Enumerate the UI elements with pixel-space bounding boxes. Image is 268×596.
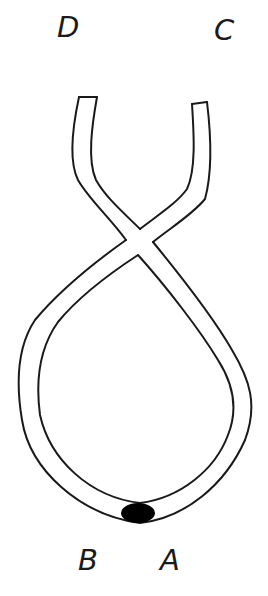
label-c: C <box>214 16 234 45</box>
label-d: D <box>57 13 79 42</box>
label-b: B <box>78 546 98 575</box>
label-a: A <box>160 546 180 575</box>
blob-marker <box>121 503 155 523</box>
loop-inner-edge <box>38 255 233 503</box>
loop-outer-edge <box>19 240 252 523</box>
tube-end-c <box>192 102 207 104</box>
tube-loop-drawing <box>0 0 268 596</box>
twisted-loop-diagram: D C B A <box>0 0 268 596</box>
